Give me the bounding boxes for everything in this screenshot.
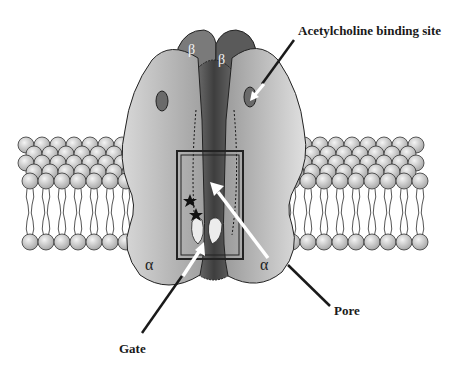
pore-label: Pore [334, 303, 360, 319]
gate-label: Gate [119, 341, 146, 357]
acetylcholine-binding-site-label: Acetylcholine binding site [298, 23, 441, 39]
alpha-subunit-left [122, 49, 204, 285]
alpha-label-left: α [145, 256, 153, 274]
pore-leader-line [288, 265, 330, 306]
beta-label-right: β [218, 52, 225, 68]
alpha-subunit-right [224, 48, 306, 283]
beta-label-left: β [188, 42, 195, 58]
alpha-label-right: α [260, 256, 268, 274]
diagram-canvas [0, 0, 475, 368]
binding-site-left [156, 91, 168, 111]
lipid-bilayer-left [18, 137, 138, 250]
acetylcholine-receptor [122, 30, 306, 285]
